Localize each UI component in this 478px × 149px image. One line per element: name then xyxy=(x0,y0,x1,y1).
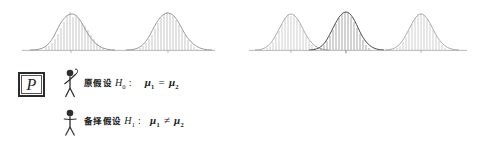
stick-figure-open-arms-icon xyxy=(62,104,84,138)
alternative-hypothesis-row-left: 备择假设 H1 : μ1≠μ2 xyxy=(62,104,184,138)
alternative-hypothesis-statement-left: 备择假设 H1 : μ1≠μ2 xyxy=(84,114,184,128)
three-distributions-svg xyxy=(239,2,478,58)
null-hypothesis-row-left: 原假设 H0 : μ1=μ2 xyxy=(62,66,179,100)
p-logo-badge-left: P xyxy=(18,72,45,97)
distribution-2 xyxy=(309,12,384,50)
alternative-hypothesis-label-left: 备择假设 xyxy=(84,114,121,126)
null-hypothesis-statement-left: 原假设 H0 : μ1=μ2 xyxy=(84,76,179,90)
alternative-hypothesis-colon-left: : xyxy=(138,115,141,126)
p-logo-letter: P xyxy=(27,76,37,92)
two-distributions-svg xyxy=(0,2,239,58)
distribution-figure-right xyxy=(239,2,478,58)
distribution-3 xyxy=(385,13,459,50)
panel-two-sample-test: P 原假设 H0 : μ1=μ2 xyxy=(0,0,239,149)
alternative-hypothesis-formula-left: μ1≠μ2 xyxy=(150,114,184,128)
distribution-2 xyxy=(118,12,215,53)
distribution-1 xyxy=(22,12,118,53)
figure-canvas: P 原假设 H0 : μ1=μ2 xyxy=(0,0,478,149)
null-hypothesis-formula-left: μ1=μ2 xyxy=(145,76,179,90)
stick-figure-raised-arm-icon xyxy=(62,66,84,100)
distribution-figure-left xyxy=(0,2,239,58)
null-hypothesis-label-left: 原假设 xyxy=(84,76,112,88)
panel-anova-test: P 原假设 H0 : μ1=μ2=μ3= ⋯ xyxy=(239,0,478,149)
alternative-hypothesis-symbol-left: H1 xyxy=(124,115,135,128)
null-hypothesis-symbol-left: H0 xyxy=(115,77,126,90)
distribution-1 xyxy=(255,14,329,50)
p-logo-inner-border: P xyxy=(21,75,42,94)
null-hypothesis-colon-left: : xyxy=(129,77,132,88)
